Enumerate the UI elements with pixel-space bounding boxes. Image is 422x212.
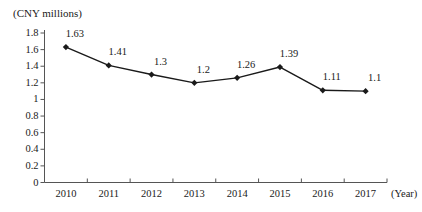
data-point-marker bbox=[277, 64, 283, 70]
data-point-label: 1.2 bbox=[183, 64, 223, 75]
y-axis-tick-label: 0.8 bbox=[13, 110, 39, 121]
y-axis-tick-label: 1.2 bbox=[13, 77, 39, 88]
x-axis-ticks bbox=[87, 179, 387, 183]
data-point-label: 1.1 bbox=[355, 72, 395, 83]
data-point-label: 1.26 bbox=[226, 59, 266, 70]
data-point-marker bbox=[148, 71, 154, 77]
y-axis-tick-label: 1 bbox=[13, 93, 39, 104]
data-point-label: 1.63 bbox=[55, 28, 95, 39]
y-axis-tick-label: 0.4 bbox=[13, 143, 39, 154]
line-chart: (CNY millions) 1.81.61.41.210.80.60.40.2… bbox=[0, 0, 422, 212]
data-point-label: 1.39 bbox=[269, 48, 309, 59]
data-point-marker bbox=[106, 62, 112, 68]
data-point-label: 1.41 bbox=[98, 46, 138, 57]
data-point-marker bbox=[234, 75, 240, 81]
x-axis bbox=[45, 179, 388, 183]
x-axis-tick-label: 2016 bbox=[301, 188, 345, 199]
data-point-marker bbox=[320, 87, 326, 93]
y-axis-tick-label: 0.6 bbox=[13, 127, 39, 138]
y-axis-tick-label: 0.2 bbox=[13, 160, 39, 171]
x-axis-tick-label: 2014 bbox=[215, 188, 259, 199]
x-axis-tick-label: 2015 bbox=[258, 188, 302, 199]
y-axis-tick-label: 1.8 bbox=[13, 27, 39, 38]
y-axis bbox=[41, 30, 45, 183]
y-axis-ticks bbox=[41, 33, 45, 183]
data-point-label: 1.11 bbox=[312, 71, 352, 82]
x-axis-tick-label: 2017 bbox=[344, 188, 388, 199]
x-axis-tick-label: 2013 bbox=[172, 188, 216, 199]
y-axis-tick-label: 0 bbox=[13, 177, 39, 188]
data-point-marker bbox=[191, 80, 197, 86]
x-axis-tick-label: 2010 bbox=[44, 188, 88, 199]
data-point-marker bbox=[63, 44, 69, 50]
y-axis-tick-label: 1.4 bbox=[13, 60, 39, 71]
data-point-marker bbox=[362, 88, 368, 94]
y-axis-tick-label: 1.6 bbox=[13, 44, 39, 55]
data-point-label: 1.3 bbox=[141, 56, 181, 67]
x-axis-caption: (Year) bbox=[391, 188, 417, 199]
x-axis-tick-label: 2011 bbox=[87, 188, 131, 199]
x-axis-tick-label: 2012 bbox=[130, 188, 174, 199]
